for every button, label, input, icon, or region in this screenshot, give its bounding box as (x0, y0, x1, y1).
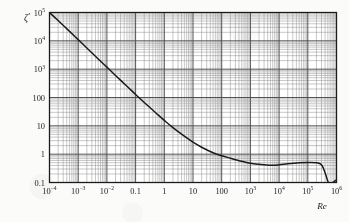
y-tick-label: 104 (34, 35, 45, 46)
y-tick-label: 105 (34, 7, 45, 18)
y-tick-label: 0.1 (35, 179, 45, 188)
x-tick-labels: 10−410−310−20.1110100103104105106 (42, 185, 342, 196)
chart-figure: 10−410−310−20.11101001031041051061051041… (0, 0, 349, 222)
x-tick-label: 0.1 (130, 187, 140, 196)
y-tick-label: 100 (32, 94, 45, 103)
x-tick-label: 103 (245, 185, 256, 196)
log-log-plot: 10−410−310−20.11101001031041051061051041… (0, 0, 349, 222)
x-axis-title: Re (316, 201, 327, 211)
y-tick-label: 1 (41, 150, 45, 159)
x-tick-label: 10−3 (71, 185, 86, 196)
x-tick-label: 10 (189, 187, 197, 196)
x-tick-label: 105 (302, 185, 313, 196)
y-tick-labels: 1051041031001010.1 (32, 7, 45, 188)
x-tick-label: 1 (162, 187, 166, 196)
x-tick-label: 106 (331, 185, 342, 196)
y-tick-label: 10 (37, 122, 45, 131)
x-tick-label: 10−2 (100, 185, 115, 196)
y-tick-label: 103 (34, 64, 45, 75)
x-tick-label: 100 (215, 187, 228, 196)
y-axis-title: ζ′ (24, 12, 30, 25)
x-tick-label: 104 (274, 185, 285, 196)
